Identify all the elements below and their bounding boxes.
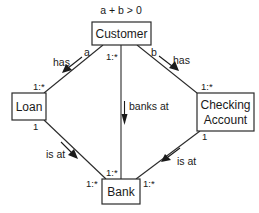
mult-checking-isat: 1: [202, 131, 207, 142]
mult-bank-loan: 1:*: [86, 178, 98, 189]
role-label-b: b: [151, 46, 157, 58]
mult-bank-checking: 1:*: [143, 178, 155, 189]
edge-label-customer-loan: has: [53, 56, 70, 68]
mult-loan-has: 1:*: [33, 81, 45, 92]
entity-label: Bank: [107, 185, 135, 199]
entity-loan[interactable]: Loan: [12, 93, 46, 120]
mult-customer-banks: 1:*: [106, 51, 118, 62]
edge-label-customer-checking: has: [173, 54, 190, 66]
edge-label-loan-bank: is at: [46, 148, 65, 160]
mult-checking-has: 1:*: [201, 81, 213, 92]
mult-loan-isat: 1: [33, 121, 38, 132]
arrow-icon-customer-bank: [122, 101, 128, 125]
edge-customer-checking: [137, 45, 197, 93]
er-diagram: a + b > 0 Customer Loan Checking Account…: [0, 0, 259, 213]
entity-label-line1: Checking: [200, 98, 250, 112]
edge-label-customer-bank: banks at: [129, 100, 169, 112]
entity-label: Customer: [95, 27, 147, 41]
entity-bank[interactable]: Bank: [102, 179, 140, 204]
entity-label-line2: Account: [204, 113, 248, 127]
entity-customer[interactable]: Customer: [92, 22, 151, 45]
constraint-label: a + b > 0: [100, 4, 142, 16]
edge-label-checking-bank: is at: [177, 155, 196, 167]
edge-customer-loan: [44, 45, 103, 93]
entity-label: Loan: [16, 100, 43, 114]
role-label-a: a: [84, 46, 90, 58]
entity-checking-account[interactable]: Checking Account: [197, 93, 254, 131]
mult-bank-banks: 1:*: [106, 167, 118, 178]
